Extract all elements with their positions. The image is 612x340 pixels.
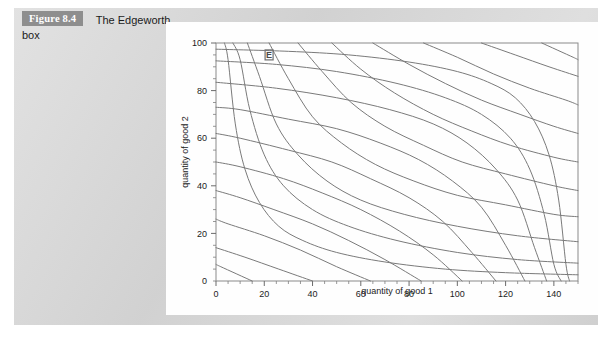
svg-text:40: 40 bbox=[197, 181, 207, 191]
svg-text:100: 100 bbox=[192, 38, 207, 48]
figure-number-badge: Figure 8.4 bbox=[22, 11, 83, 26]
svg-text:40: 40 bbox=[308, 289, 318, 299]
svg-text:80: 80 bbox=[197, 86, 207, 96]
svg-text:140: 140 bbox=[546, 289, 561, 299]
svg-text:120: 120 bbox=[498, 289, 513, 299]
figure-title-line1: The Edgeworth bbox=[96, 14, 171, 26]
svg-text:100: 100 bbox=[450, 289, 465, 299]
svg-text:E: E bbox=[266, 50, 272, 60]
svg-text:20: 20 bbox=[197, 229, 207, 239]
svg-text:0: 0 bbox=[202, 276, 207, 286]
figure-caption: Figure 8.4 The Edgeworth box bbox=[22, 8, 172, 41]
figure-title-line2: box bbox=[22, 29, 172, 41]
plot-frame bbox=[216, 43, 578, 281]
axis-ticks bbox=[211, 43, 578, 286]
svg-text:60: 60 bbox=[197, 133, 207, 143]
y-axis-label: quantity of good 2 bbox=[180, 116, 190, 188]
figure-page: Figure 8.4 The Edgeworth box 02040608010… bbox=[0, 0, 612, 340]
edgeworth-box-chart: 020406080100120140204060801000 E quantit… bbox=[166, 22, 598, 315]
x-axis-label: quantity of good 1 bbox=[361, 286, 433, 296]
svg-text:0: 0 bbox=[213, 289, 218, 299]
svg-text:20: 20 bbox=[259, 289, 269, 299]
point-annotations: E bbox=[265, 50, 273, 60]
figure-panel: 020406080100120140204060801000 E quantit… bbox=[166, 22, 598, 315]
